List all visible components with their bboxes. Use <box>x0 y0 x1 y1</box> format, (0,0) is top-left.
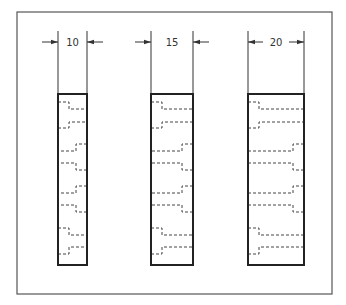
hidden-hole <box>248 186 304 212</box>
hidden-line <box>151 163 193 170</box>
hidden-line <box>58 122 87 128</box>
hidden-hole <box>151 102 193 128</box>
hidden-hole <box>248 102 304 128</box>
block-outline <box>248 94 304 265</box>
hidden-line <box>58 186 87 193</box>
hidden-line <box>248 205 304 212</box>
part-block: 15 <box>135 31 209 265</box>
hidden-line <box>58 144 87 151</box>
blocks-layer: 101520 <box>42 31 304 265</box>
hidden-line <box>248 122 304 128</box>
hidden-hole <box>58 186 87 212</box>
hidden-line <box>151 228 193 235</box>
arrowhead-icon <box>144 40 151 44</box>
hidden-hole <box>151 186 193 212</box>
dimension-label: 20 <box>270 37 283 48</box>
hidden-line <box>151 205 193 212</box>
part-block: 20 <box>248 31 304 265</box>
part-block: 10 <box>42 31 103 265</box>
block-outline <box>151 94 193 265</box>
hidden-line <box>151 186 193 193</box>
hidden-line <box>58 163 87 170</box>
dimension-label: 15 <box>166 37 179 48</box>
hidden-line <box>248 102 304 109</box>
hidden-line <box>248 144 304 151</box>
arrowhead-icon <box>51 40 58 44</box>
hidden-line <box>151 102 193 109</box>
hidden-line <box>151 122 193 128</box>
hidden-hole <box>151 228 193 254</box>
hidden-hole <box>58 144 87 170</box>
hidden-line <box>248 228 304 235</box>
hidden-line <box>58 228 87 235</box>
hidden-line <box>58 205 87 212</box>
arrowhead-icon <box>87 40 94 44</box>
hidden-line <box>248 163 304 170</box>
hidden-hole <box>248 144 304 170</box>
hidden-line <box>58 247 87 254</box>
hidden-line <box>151 144 193 151</box>
hidden-hole <box>248 228 304 254</box>
hidden-hole <box>151 144 193 170</box>
hidden-line <box>58 102 87 109</box>
hidden-hole <box>58 102 87 128</box>
block-outline <box>58 94 87 265</box>
dimension-label: 10 <box>66 37 79 48</box>
arrowhead-icon <box>193 40 200 44</box>
drawing-frame <box>17 12 332 294</box>
arrowhead-icon <box>297 40 304 44</box>
hidden-line <box>248 247 304 254</box>
arrowhead-icon <box>248 40 255 44</box>
hidden-line <box>248 186 304 193</box>
engineering-drawing: 101520 <box>0 0 346 305</box>
hidden-line <box>151 247 193 254</box>
hidden-hole <box>58 228 87 254</box>
